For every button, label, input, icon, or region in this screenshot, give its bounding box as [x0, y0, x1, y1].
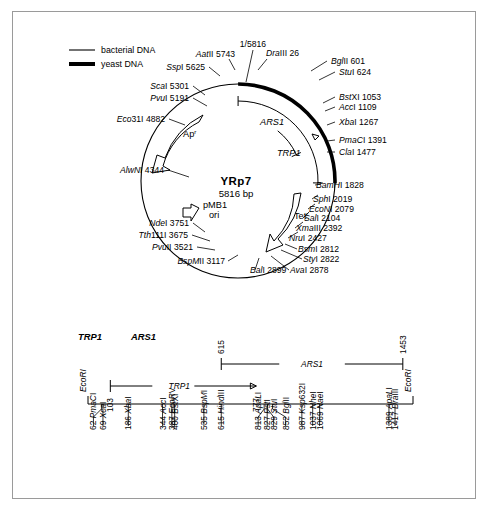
site-leader-StuI: [319, 72, 335, 80]
site-label-BamHI: BamHI 1828: [316, 180, 364, 190]
site-label-AccI: AccI 1109: [338, 102, 377, 112]
figure-frame: bacterial DNAyeast DNAYRp75816 bpAprTetr…: [12, 11, 476, 499]
linear-site-label-BstXI-400: 400 BstXI: [170, 394, 180, 430]
linear-site-label-Ksp632I-987: 987 Ksp632I: [297, 383, 307, 430]
ars1-start-pos: 615: [216, 340, 226, 354]
site-label-StuI: StuI 624: [339, 67, 371, 77]
linear-header-trp1: TRP1: [78, 331, 102, 342]
site-leader-XbaI: [327, 122, 335, 125]
plasmid-size: 5816 bp: [219, 188, 254, 199]
site-leader-SspI: [209, 67, 220, 76]
site-label-AatII: AatII 5743: [195, 49, 235, 59]
ars1-span-label: ARS1: [300, 359, 323, 369]
linear-site-label-XbaI-186: 186 XbaI: [123, 396, 133, 430]
linear-site-label-PmaCI-62: 62 PmaCI: [88, 393, 98, 430]
site-label-NruI: NruI 2427: [289, 233, 327, 243]
ars1-end-pos: 1453: [398, 335, 408, 354]
site-label-PvuII: PvuII 3521: [152, 242, 193, 252]
site-leader-BglII: [311, 61, 327, 71]
site-label-BstXI: BstXI 1053: [339, 92, 381, 102]
site-leader-NdeI: [193, 223, 205, 232]
linear-site-label-DraIII-1417: 1417 DraIII: [390, 389, 400, 430]
site-label-SalI: SalI 2104: [304, 213, 341, 223]
site-label-PvuI: PvuI 5191: [150, 93, 189, 103]
feature-label-trp1: TRP1: [277, 148, 301, 158]
site-leader-BstXI: [323, 97, 335, 103]
linear-right-end-label: EcoRI: [403, 369, 413, 392]
site-leader-PmaCI: [327, 140, 335, 141]
site-label-ScaI: ScaI 5301: [150, 81, 189, 91]
site-leader-BspMII: [228, 255, 238, 261]
site-label-BglII: BglII 601: [331, 56, 365, 66]
site-leader-PvuI: [193, 98, 207, 106]
site-label-BspMII: BspMII 3117: [177, 256, 225, 266]
linear-left-end-label: EcoRI: [78, 369, 88, 392]
site-label-ClaI: ClaI 1477: [339, 147, 376, 157]
linear-header-ars1: ARS1: [130, 331, 156, 342]
plasmid-figure: bacterial DNAyeast DNAYRp75816 bpAprTetr…: [13, 12, 475, 498]
site-label-StyI: StyI 2822: [303, 254, 340, 264]
site-leader-PvuII: [197, 247, 215, 250]
linear-site-label-StuI-829: 829 StuI: [269, 399, 279, 430]
feature-label-pmb1: pMB1: [203, 200, 227, 210]
site-label-BsmI: BsmI 2812: [298, 244, 339, 254]
linear-site-label-HindIII-615: 615 HindIII: [216, 389, 226, 430]
site-label-PmaCI: PmaCI 1391: [339, 135, 387, 145]
legend-yeast-label: yeast DNA: [101, 59, 143, 69]
site-label-BalI: BalI 2899: [250, 265, 287, 275]
site-label-NdeI: NdeI 3751: [149, 218, 189, 228]
site-leader-Tth111I: [192, 235, 210, 241]
site-label-Tth111I: Tth111I 3675: [139, 230, 189, 240]
site-leader-AccI: [325, 107, 335, 111]
site-label-XmaIII: XmaIII 2392: [295, 223, 343, 233]
site-label-SphI: SphI 2019: [313, 194, 352, 204]
site-label-AlwNI: AlwNI 4344: [119, 165, 164, 175]
legend-bacterial-label: bacterial DNA: [101, 45, 155, 55]
site-label-EcoNI: EcoNI 2079: [309, 204, 354, 214]
site-label-Eco31I: Eco31I 4882: [117, 114, 165, 124]
site-label-DraIII: DraIII 26: [266, 48, 299, 58]
site-leader-Eco31I: [169, 119, 185, 125]
yeast-dna-arc: [238, 84, 335, 183]
origin-label: 1/5816: [240, 39, 267, 49]
plasmid-name: YRp7: [221, 175, 252, 187]
feature-label-pmb1-ori: ori: [209, 210, 219, 220]
site-label-SspI: SspI 5625: [166, 62, 205, 72]
origin-leader: [246, 50, 253, 82]
trp1-direction-arrowhead: [312, 134, 319, 140]
linear-site-label-NaeI-1069: 1069 NaeI: [315, 391, 325, 430]
site-leader-AatII: [229, 59, 235, 70]
site-leader-AlwNI: [168, 170, 189, 177]
linear-site-label-XcaI-69: 69 XcaI: [98, 402, 108, 430]
site-label-AvaI: AvaI 2878: [289, 265, 329, 275]
site-leader-BsmI: [285, 244, 297, 249]
feature-label-ars1: ARS1: [259, 117, 284, 127]
site-leader-DraIII: [258, 59, 267, 70]
linear-site-label-BglII-852: 852 BglII: [281, 397, 291, 430]
site-label-XbaI: XbaI 1267: [338, 117, 378, 127]
linear-site-label-BspMI-535: 535 BspMI: [199, 390, 209, 430]
